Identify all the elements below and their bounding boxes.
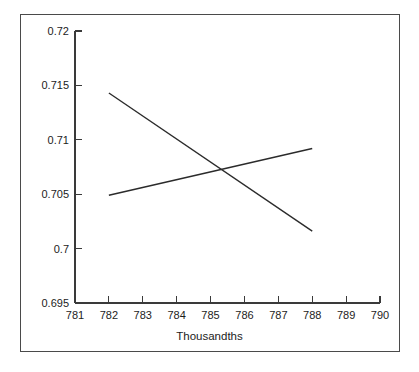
axes-group (75, 31, 380, 303)
x-tick-label: 782 (100, 310, 118, 321)
y-tick-marks (75, 31, 82, 303)
y-tick-label: 0.72 (0, 26, 69, 37)
x-tick-label: 786 (235, 310, 253, 321)
x-tick-label: 781 (66, 310, 84, 321)
y-tick-label: 0.705 (0, 189, 69, 200)
y-tick-label: 0.7 (0, 243, 69, 254)
x-tick-label: 784 (167, 310, 185, 321)
x-tick-label: 785 (201, 310, 219, 321)
chart-figure: 0.6950.70.7050.710.7150.72 7817827837847… (0, 0, 419, 372)
x-axis-title: Thousandths (0, 330, 419, 342)
x-tick-label: 787 (269, 310, 287, 321)
data-series-group (109, 93, 312, 231)
x-tick-label: 788 (303, 310, 321, 321)
y-tick-label: 0.695 (0, 298, 69, 309)
x-tick-marks (75, 296, 380, 303)
x-tick-label: 789 (337, 310, 355, 321)
x-tick-label: 783 (134, 310, 152, 321)
series-descending-line (109, 93, 312, 231)
x-tick-label: 790 (371, 310, 389, 321)
y-tick-label: 0.715 (0, 80, 69, 91)
series-ascending-line (109, 149, 312, 196)
y-tick-label: 0.71 (0, 134, 69, 145)
